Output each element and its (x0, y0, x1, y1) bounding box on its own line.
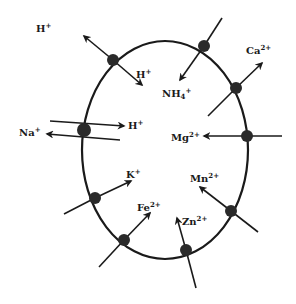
transporter-node-nh4 (198, 40, 210, 52)
ion-label-h-plus-out: H+ (36, 24, 51, 34)
ion-label-zn-2plus: Zn2+ (182, 217, 207, 227)
ion-label-mg-2plus: Mg2+ (171, 133, 200, 143)
transporter-node-mg (241, 130, 253, 142)
cell-membrane (82, 41, 248, 259)
ion-label-fe-2plus: Fe2+ (137, 203, 161, 213)
transporter-node-fe (118, 234, 130, 246)
transporter-node-h-plus (107, 54, 119, 66)
nh4-influx-arrow (180, 46, 204, 80)
ion-label-na-plus: Na+ (19, 128, 41, 138)
ion-label-mn-2plus: Mn2+ (190, 174, 219, 184)
transporter-node-na-h (77, 123, 91, 137)
transporter-node-mn (225, 205, 237, 217)
transporter-node-ca (230, 82, 242, 94)
ion-label-h-plus-in-mid: H+ (128, 121, 143, 131)
transporter-node-zn (180, 244, 192, 256)
ion-label-k-plus: K+ (126, 170, 141, 180)
ion-label-nh4-plus: NH4+ (162, 89, 191, 99)
transporter-node-k (89, 192, 101, 204)
ion-label-h-plus-in-top: H+ (136, 70, 151, 80)
ion-label-ca-2plus: Ca2+ (246, 46, 271, 56)
